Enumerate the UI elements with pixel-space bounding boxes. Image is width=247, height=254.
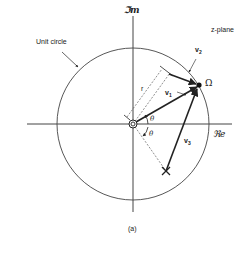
radius-label: r	[141, 85, 144, 92]
angle-label-lower: θ	[149, 130, 154, 138]
angle-label-upper: θ	[150, 115, 155, 123]
v1-label: v1	[165, 89, 172, 98]
figure-caption: (a)	[128, 225, 137, 233]
unit-circle-label: Unit circle	[36, 38, 67, 45]
unit-circle-pointer	[62, 52, 78, 67]
v3-label: v3	[184, 137, 191, 146]
omega-point	[196, 82, 201, 87]
zero-marker-inner	[131, 122, 135, 126]
imag-axis-label: ℑm	[124, 5, 140, 15]
pole-marker	[162, 167, 170, 175]
z-plane-diagram: ℑm ℜe z-plane Unit circle r v1 v2 v3 Ω θ…	[0, 0, 247, 254]
angle-arc-lower	[143, 127, 148, 136]
v2-label-pointer	[189, 59, 196, 72]
omega-label: Ω	[205, 78, 212, 88]
plane-label: z-plane	[211, 26, 234, 34]
real-axis-label: ℜe	[213, 129, 225, 139]
v2-label: v2	[195, 46, 202, 55]
radius-tick-start	[124, 115, 130, 120]
